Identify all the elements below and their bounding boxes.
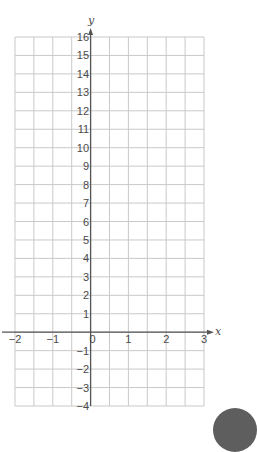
y-tick-label: 7 — [83, 197, 89, 209]
x-axis-label: x — [215, 325, 222, 338]
y-tick-label: −2 — [77, 363, 90, 375]
x-tick-label: 3 — [201, 333, 207, 345]
y-tick-label: 3 — [83, 271, 89, 283]
y-tick-label: 10 — [77, 142, 89, 154]
y-tick-label: 16 — [77, 31, 89, 43]
y-tick-label: −3 — [77, 382, 90, 394]
y-tick-label: −4 — [77, 400, 90, 412]
x-tick-label: 1 — [125, 333, 131, 345]
y-tick-label: 1 — [83, 308, 89, 320]
y-tick-label: 13 — [77, 86, 89, 98]
y-tick-label: 8 — [83, 179, 89, 191]
x-tick-labels: −2−10123 — [9, 333, 207, 345]
y-tick-label: 12 — [77, 105, 89, 117]
y-axis-label: y — [87, 14, 95, 27]
x-tick-label: 2 — [163, 333, 169, 345]
corner-tab-circle — [213, 408, 257, 452]
x-tick-label: −2 — [9, 333, 22, 345]
y-tick-label: 14 — [77, 68, 89, 80]
y-tick-label: 9 — [83, 160, 89, 172]
x-tick-label: −1 — [47, 333, 60, 345]
y-tick-label: 6 — [83, 216, 89, 228]
y-tick-label: −1 — [77, 345, 90, 357]
y-tick-label: 15 — [77, 49, 89, 61]
x-tick-label: 0 — [90, 333, 96, 345]
y-tick-label: 5 — [83, 234, 89, 246]
grid-lines — [15, 37, 204, 406]
x-axis-arrow-icon — [207, 330, 214, 335]
y-tick-label: 4 — [83, 252, 89, 264]
y-tick-label: 2 — [83, 289, 89, 301]
y-tick-label: 11 — [78, 123, 89, 135]
